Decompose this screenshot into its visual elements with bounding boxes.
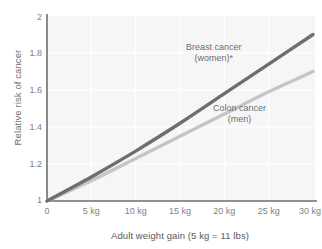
annotation-breast-cancer-line1: Breast cancer bbox=[186, 42, 242, 53]
relative-risk-of-cancer-chart: Relative risk of cancer 2 1.8 1.6 1.4 1.… bbox=[0, 0, 322, 249]
annotation-breast-cancer: Breast cancer (women)* bbox=[186, 42, 242, 65]
annotation-colon-cancer-line2: (men) bbox=[213, 114, 266, 125]
x-tick-label-0: 0 bbox=[44, 207, 49, 216]
x-tick-label-5kg: 5 kg bbox=[83, 207, 100, 216]
x-tick-label-30kg: 30 kg bbox=[299, 207, 321, 216]
x-tick-label-20kg: 20 kg bbox=[213, 207, 235, 216]
annotation-colon-cancer-line1: Colon cancer bbox=[213, 103, 266, 114]
annotation-breast-cancer-line2: (women)* bbox=[186, 53, 242, 64]
annotation-colon-cancer: Colon cancer (men) bbox=[213, 103, 266, 126]
x-tick-label-15kg: 15 kg bbox=[169, 207, 191, 216]
x-tick-label-10kg: 10 kg bbox=[125, 207, 147, 216]
x-axis-title: Adult weight gain (5 kg = 11 lbs) bbox=[42, 230, 318, 241]
plot-background bbox=[47, 16, 315, 201]
x-tick-label-25kg: 25 kg bbox=[258, 207, 280, 216]
